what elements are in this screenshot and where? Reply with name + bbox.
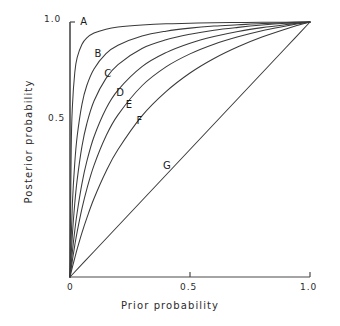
- curve-label-e: E: [126, 99, 133, 110]
- curve-label-d: D: [116, 87, 124, 98]
- x-axis-title: Prior probability: [0, 300, 340, 311]
- curve-label-f: F: [137, 115, 143, 126]
- x-tick-label-0p5: 0.5: [180, 282, 197, 292]
- curve-g: [70, 22, 310, 277]
- curve-label-g: G: [163, 160, 171, 171]
- chart-figure: 1.0 0.5 0 0.5 1.0 A B C D E F G Prior pr…: [0, 0, 340, 326]
- y-tick-label-0p5: 0.5: [48, 113, 65, 123]
- curve-label-a: A: [80, 16, 87, 27]
- x-tick-label-0: 0: [67, 282, 74, 292]
- curve-label-c: C: [104, 68, 111, 79]
- curve-label-b: B: [95, 48, 102, 59]
- y-axis-title: Posterior probability: [23, 52, 34, 232]
- x-tick-label-1p0: 1.0: [300, 282, 317, 292]
- y-tick-label-1p0: 1.0: [44, 14, 61, 24]
- curve-paths: [70, 22, 310, 277]
